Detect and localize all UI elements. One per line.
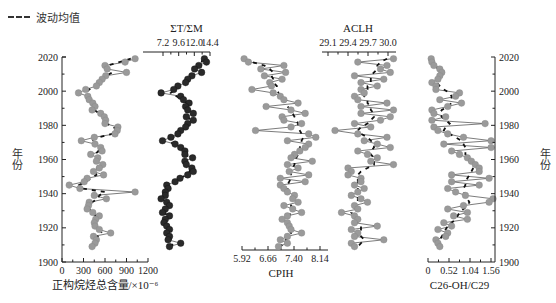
data-point <box>289 206 296 213</box>
data-point <box>182 79 189 86</box>
data-point <box>132 189 139 196</box>
x-tick-label: 8.14 <box>311 253 329 264</box>
data-point <box>351 73 358 80</box>
data-point <box>429 117 436 124</box>
data-point <box>89 243 96 250</box>
data-point <box>252 127 259 134</box>
data-point <box>96 226 103 233</box>
data-point <box>168 134 175 141</box>
data-point <box>476 168 483 175</box>
data-point <box>361 90 368 97</box>
data-point <box>441 141 448 148</box>
data-point <box>332 127 339 134</box>
data-point <box>435 127 442 134</box>
data-point <box>77 185 84 192</box>
data-point <box>488 137 495 144</box>
panel-5: 00.521.041.56C26-OH/C29 <box>426 55 500 291</box>
x-tick-label: 6.66 <box>259 253 277 264</box>
data-point <box>281 117 288 124</box>
data-point <box>448 148 455 155</box>
data-point <box>358 178 365 185</box>
data-point <box>361 137 368 144</box>
data-point <box>452 189 459 196</box>
x-tick-label: 7.40 <box>285 253 303 264</box>
x-tick-label: 7.2 <box>157 37 170 48</box>
data-point <box>112 131 119 138</box>
data-point <box>309 158 316 165</box>
y-tick-label: 1960 <box>38 154 58 165</box>
data-point <box>390 55 397 62</box>
data-point <box>249 86 256 93</box>
data-point <box>295 100 302 107</box>
data-point <box>368 124 375 131</box>
data-point <box>165 237 172 244</box>
data-point <box>441 219 448 226</box>
x-axis-title: C26-OH/C29 <box>430 279 490 291</box>
data-point <box>281 96 288 103</box>
x-tick-label: 300 <box>76 265 91 276</box>
x-tick-label: 5.92 <box>233 253 251 264</box>
x-tick-label: 9.6 <box>172 37 185 48</box>
x-tick-label: 29.7 <box>359 37 377 48</box>
data-point <box>358 196 365 203</box>
data-point <box>277 237 284 244</box>
data-point <box>377 117 384 124</box>
data-point <box>444 103 451 110</box>
data-point <box>170 86 177 93</box>
data-point <box>277 175 284 182</box>
x-axis-title: ACLH <box>343 22 373 34</box>
data-point <box>258 66 265 73</box>
x-axis-title: 正构烷烃总含量/×10⁻⁶ <box>52 278 159 291</box>
data-point <box>96 165 103 172</box>
panel-1: 03006009001200正构烷烃总含量/×10⁻⁶ <box>52 55 159 291</box>
panel-2: 7.29.612.014.4ΣT/ΣM <box>143 22 219 250</box>
data-point <box>261 73 268 80</box>
y-tick-label: 2020 <box>38 52 58 63</box>
data-point <box>302 110 309 117</box>
data-point <box>355 148 362 155</box>
data-point <box>448 223 455 230</box>
data-point <box>351 243 358 250</box>
y-axis-right: 2020200019801960194019201900 <box>491 52 519 268</box>
data-point <box>448 178 455 185</box>
data-point <box>268 83 275 90</box>
data-point <box>75 90 82 97</box>
x-tick-label: 1.56 <box>482 265 500 276</box>
x-tick-label: 900 <box>119 265 134 276</box>
y-tick-label: 1920 <box>499 222 519 233</box>
data-point <box>279 76 286 83</box>
data-point <box>288 226 295 233</box>
x-tick-label: 14.4 <box>201 37 219 48</box>
data-point <box>288 155 295 162</box>
data-point <box>191 66 198 73</box>
data-point <box>377 66 384 73</box>
data-point <box>476 182 483 189</box>
data-point <box>184 172 191 179</box>
data-point <box>132 55 139 62</box>
x-tick-label: 0 <box>60 265 65 276</box>
y-tick-label: 2000 <box>38 86 58 97</box>
data-point <box>444 131 451 138</box>
data-point <box>284 240 291 247</box>
data-point <box>245 59 252 66</box>
data-point <box>435 226 442 233</box>
data-point <box>358 103 365 110</box>
data-point <box>282 69 289 76</box>
data-point <box>275 243 282 250</box>
data-point <box>384 100 391 107</box>
data-point <box>444 185 451 192</box>
data-point <box>374 223 381 230</box>
data-point <box>166 243 173 250</box>
data-point <box>442 233 449 240</box>
data-point <box>452 93 459 100</box>
data-point <box>295 199 302 206</box>
x-tick-label: 0 <box>426 265 431 276</box>
data-point <box>84 206 91 213</box>
data-point <box>355 59 362 66</box>
data-point <box>104 66 111 73</box>
data-point <box>351 233 358 240</box>
y-tick-label: 2000 <box>499 86 519 97</box>
data-point <box>284 161 291 168</box>
data-point <box>102 120 109 127</box>
data-point <box>355 96 362 103</box>
